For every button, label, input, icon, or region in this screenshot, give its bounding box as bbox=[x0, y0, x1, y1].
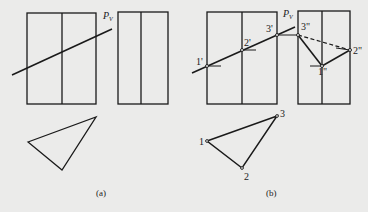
plane-subscript: V bbox=[109, 16, 113, 22]
label-3-top: 3 bbox=[280, 109, 285, 119]
figure-drawing bbox=[0, 0, 368, 212]
edge-3-1-side bbox=[298, 35, 322, 66]
label-1-double-prime: 1" bbox=[318, 67, 327, 77]
point-2-double-prime bbox=[349, 49, 352, 52]
point-2-prime bbox=[241, 49, 244, 52]
plane-label-pv-b: PV bbox=[283, 9, 293, 20]
label-2-top: 2 bbox=[244, 172, 249, 182]
label-2-prime: 2' bbox=[244, 38, 251, 48]
plane-label-pv-a: PV bbox=[103, 11, 113, 22]
point-3-prime bbox=[276, 34, 279, 37]
edge-1-2-side bbox=[322, 50, 350, 66]
caption-b: (b) bbox=[266, 189, 277, 198]
side-view-rect-a bbox=[118, 12, 168, 104]
caption-a: (a) bbox=[96, 189, 106, 198]
point-1-prime bbox=[206, 65, 209, 68]
label-1-prime: 1' bbox=[196, 57, 203, 67]
label-3-prime: 3' bbox=[266, 24, 273, 34]
top-view-triangle-a bbox=[28, 117, 96, 170]
panel-a-drawing bbox=[12, 12, 168, 170]
point-2-top bbox=[241, 167, 244, 170]
point-1-top bbox=[206, 140, 209, 143]
point-3-top bbox=[276, 115, 279, 118]
plane-subscript: V bbox=[289, 14, 293, 20]
label-1-top: 1 bbox=[199, 137, 204, 147]
label-2-double-prime: 2" bbox=[353, 46, 362, 56]
top-view-triangle-b bbox=[207, 116, 277, 168]
edge-3-2-side-hidden bbox=[298, 35, 350, 50]
panel-b-drawing bbox=[192, 11, 350, 168]
projection-figure: PV (a) PV 1' 2' 3' 1" 2" 3" 1 2 3 (b) bbox=[0, 0, 368, 212]
point-3-double-prime bbox=[297, 34, 300, 37]
label-3-double-prime: 3" bbox=[301, 22, 310, 32]
